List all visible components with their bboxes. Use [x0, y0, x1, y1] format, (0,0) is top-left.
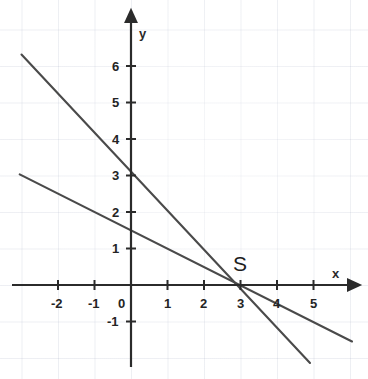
x-tick-label-5: 5	[310, 297, 317, 310]
line-steep	[22, 55, 311, 364]
x-tick-label--1: -1	[88, 297, 100, 310]
y-tick-label-2: 2	[112, 206, 119, 219]
data-lines	[20, 55, 352, 364]
x-axis-label: x	[332, 267, 339, 280]
y-tick-label--1: -1	[107, 315, 119, 328]
x-tick-label-2: 2	[200, 297, 207, 310]
intersection-point-label: S	[233, 253, 247, 274]
x-tick-label--2: -2	[51, 297, 63, 310]
x-tick-label-4: 4	[273, 297, 280, 310]
coordinate-plane	[0, 0, 368, 379]
y-tick-label-4: 4	[112, 133, 119, 146]
y-tick-label-6: 6	[112, 60, 119, 73]
line-shallow	[20, 174, 352, 341]
y-axis-label: y	[139, 27, 146, 40]
graph-figure: -2 -1 0 1 2 3 4 5 6 5 4 3 2 1 -1 y x S	[0, 0, 368, 379]
y-tick-label-5: 5	[112, 96, 119, 109]
x-tick-label-1: 1	[164, 297, 171, 310]
y-tick-label-1: 1	[112, 242, 119, 255]
x-tick-label-0: 0	[118, 297, 125, 310]
y-tick-label-3: 3	[112, 169, 119, 182]
x-tick-label-3: 3	[237, 297, 244, 310]
